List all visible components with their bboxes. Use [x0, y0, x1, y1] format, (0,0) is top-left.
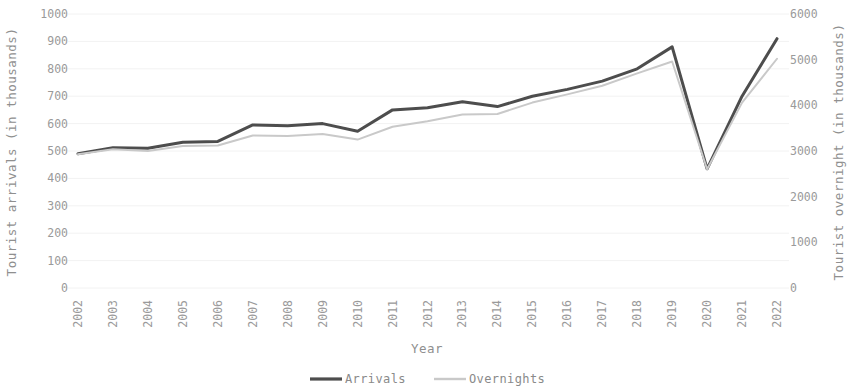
y-axis-left-tick: 1000: [40, 7, 68, 21]
x-axis-tick: 2002: [71, 300, 85, 328]
chart-container: 01002003004005006007008009001000 0100020…: [0, 0, 854, 390]
y-axis-right-title: Tourist overnight (in thousands): [831, 24, 846, 281]
x-axis-tick: 2008: [281, 300, 295, 328]
x-axis-tick: 2022: [770, 300, 784, 328]
legend-label-arrivals: Arrivals: [345, 372, 406, 386]
x-axis-tick: 2021: [735, 300, 749, 328]
y-axis-left-tick: 200: [47, 226, 68, 240]
x-axis-title: Year: [411, 341, 443, 356]
x-axis-tick: 2016: [560, 300, 574, 328]
x-axis-tick: 2003: [106, 300, 120, 328]
x-axis-tick: 2018: [630, 300, 644, 328]
y-axis-right-tick: 0: [790, 281, 797, 295]
x-axis-tick: 2019: [665, 300, 679, 328]
y-axis-right-tick: 4000: [790, 98, 818, 112]
y-axis-left-title: Tourist arrivals (in thousands): [4, 28, 19, 277]
y-axis-right-tick: 3000: [790, 144, 818, 158]
y-axis-right-tick: 6000: [790, 7, 818, 21]
y-axis-left-tick: 700: [47, 89, 68, 103]
legend-label-overnights: Overnights: [469, 372, 545, 386]
y-axis-left-tick: 500: [47, 144, 68, 158]
chart-background: [0, 0, 854, 390]
x-axis-tick: 2005: [176, 300, 190, 328]
x-axis-tick: 2012: [421, 300, 435, 328]
x-axis-tick-labels: 2002200320042005200620072008200920102011…: [71, 300, 784, 328]
y-axis-left-tick: 900: [47, 34, 68, 48]
y-axis-right-tick: 1000: [790, 235, 818, 249]
x-axis-tick: 2011: [386, 300, 400, 328]
x-axis-tick: 2020: [700, 300, 714, 328]
x-axis-tick: 2013: [455, 300, 469, 328]
y-axis-left-tick: 100: [47, 254, 68, 268]
line-chart: 01002003004005006007008009001000 0100020…: [0, 0, 854, 390]
x-axis-tick: 2004: [141, 300, 155, 328]
x-axis-tick: 2007: [246, 300, 260, 328]
x-axis-tick: 2014: [490, 300, 504, 328]
y-axis-right-tick: 2000: [790, 190, 818, 204]
x-axis-tick: 2017: [595, 300, 609, 328]
y-axis-left-tick: 300: [47, 199, 68, 213]
x-axis-tick: 2010: [351, 300, 365, 328]
x-axis-tick: 2009: [316, 300, 330, 328]
y-axis-left-tick: 600: [47, 117, 68, 131]
x-axis-tick: 2006: [211, 300, 225, 328]
y-axis-left-tick: 400: [47, 171, 68, 185]
y-axis-right-tick: 5000: [790, 53, 818, 67]
y-axis-left-tick: 0: [61, 281, 68, 295]
y-axis-left-tick: 800: [47, 62, 68, 76]
x-axis-tick: 2015: [525, 300, 539, 328]
